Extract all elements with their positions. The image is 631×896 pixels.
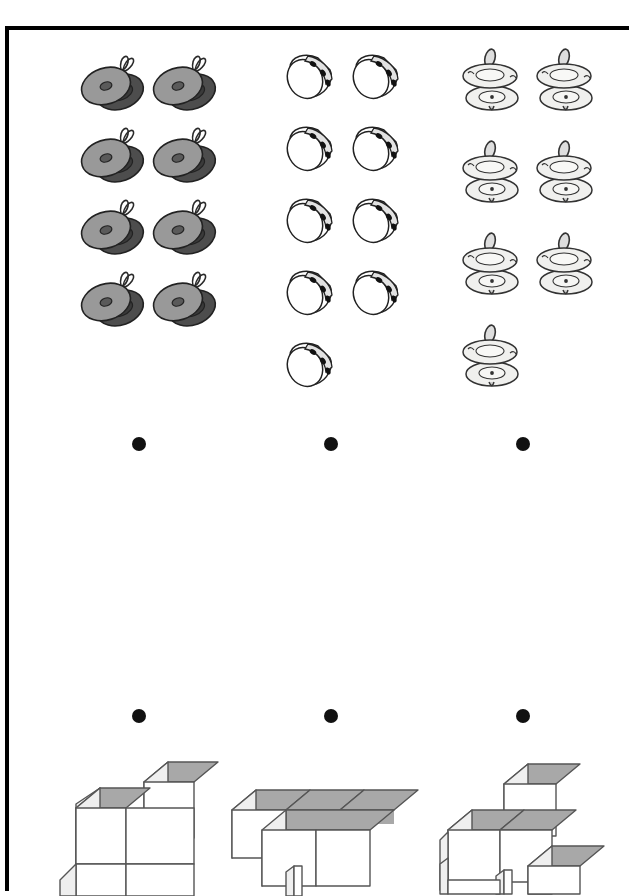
tambourine-icon xyxy=(278,264,340,326)
cube-stack-left xyxy=(58,756,228,896)
finger-cymbals-icon xyxy=(460,230,528,306)
group-tambourines xyxy=(278,48,418,408)
tambourine-icon xyxy=(344,192,406,254)
tambourine-icon xyxy=(344,48,406,110)
finger-cymbals-icon xyxy=(460,322,528,398)
tambourine-icon xyxy=(344,264,406,326)
hand-cymbals-icon xyxy=(78,192,152,270)
tambourine-icon xyxy=(278,48,340,110)
finger-cymbals-icon xyxy=(460,46,528,122)
answer-slot-6-bullet[interactable] xyxy=(516,709,530,723)
cube-stack-middle xyxy=(230,762,430,896)
group-finger-cymbals xyxy=(460,46,610,386)
hand-cymbals-icon xyxy=(78,48,152,126)
tambourine-icon xyxy=(278,336,340,398)
hand-cymbals-icon xyxy=(150,264,224,342)
cube-stack-right xyxy=(440,754,620,894)
tambourine-icon xyxy=(278,120,340,182)
finger-cymbals-icon xyxy=(534,138,602,214)
finger-cymbals-icon xyxy=(460,138,528,214)
hand-cymbals-icon xyxy=(78,264,152,342)
answer-slot-3-bullet[interactable] xyxy=(516,437,530,451)
tambourine-icon xyxy=(278,192,340,254)
hand-cymbals-icon xyxy=(150,48,224,126)
finger-cymbals-icon xyxy=(534,230,602,306)
answer-slot-5-bullet[interactable] xyxy=(324,709,338,723)
hand-cymbals-icon xyxy=(150,192,224,270)
finger-cymbals-icon xyxy=(534,46,602,122)
hand-cymbals-icon xyxy=(150,120,224,198)
answer-slot-1-bullet[interactable] xyxy=(132,437,146,451)
tambourine-icon xyxy=(344,120,406,182)
hand-cymbals-icon xyxy=(78,120,152,198)
group-cymbals xyxy=(72,48,232,398)
answer-slot-4-bullet[interactable] xyxy=(132,709,146,723)
answer-slot-2-bullet[interactable] xyxy=(324,437,338,451)
